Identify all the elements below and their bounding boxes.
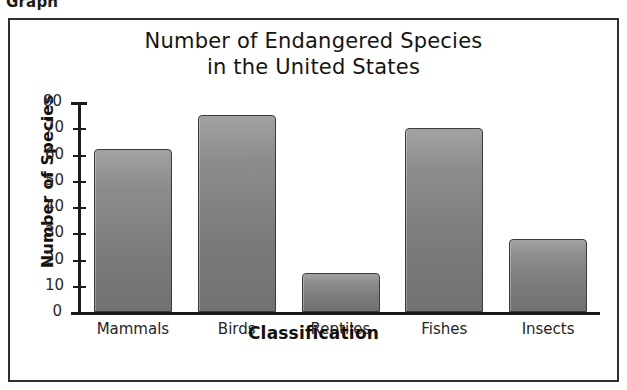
y-axis-tick-label: 60 xyxy=(45,147,64,162)
x-axis-title: Classification xyxy=(10,323,617,343)
y-axis-tick: 0 xyxy=(71,312,87,315)
y-axis-tick-label: 30 xyxy=(45,225,64,240)
bar-mammals xyxy=(94,149,172,312)
y-axis-tick-label: 0 xyxy=(52,304,62,319)
y-axis-tick-label: 70 xyxy=(45,120,64,135)
y-axis-tick-label: 10 xyxy=(45,278,64,293)
chart-frame: Number of Endangered Species in the Unit… xyxy=(8,18,619,382)
y-axis-tick-label: 50 xyxy=(45,173,64,188)
figure-caption: Graph xyxy=(6,0,58,11)
chart-title: Number of Endangered Species in the Unit… xyxy=(10,28,617,80)
bar-birds xyxy=(198,115,276,312)
y-axis-tick-label: 40 xyxy=(45,199,64,214)
bar-reptiles xyxy=(302,273,380,312)
chart-title-line-1: Number of Endangered Species xyxy=(10,28,617,54)
y-axis-tick-label: 20 xyxy=(45,252,64,267)
y-axis-tick-label: 80 xyxy=(43,94,62,109)
plot-area: 01020304050607080 MammalsBirdsReptilesFi… xyxy=(78,102,600,314)
x-axis-line xyxy=(78,312,600,315)
chart-title-line-2: in the United States xyxy=(10,54,617,80)
bar-series xyxy=(81,102,600,312)
bar-fishes xyxy=(405,128,483,312)
bar-insects xyxy=(509,239,587,313)
